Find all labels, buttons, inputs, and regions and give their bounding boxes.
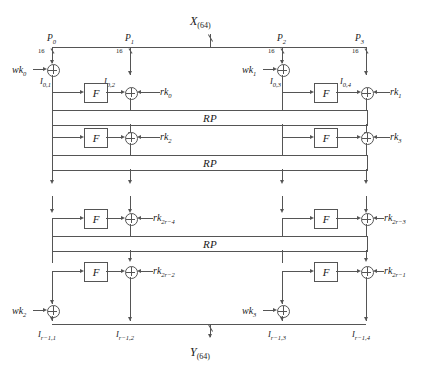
output-label: Y(64) [190,345,210,361]
intermediate-label-Ir13: Ir−1,3 [268,329,286,341]
branch-line-p2-r0 [282,75,283,92]
rp1-out-b1 [52,124,53,137]
arrow-rk0-into-xor [137,90,141,94]
arrow-p3-down [364,71,368,75]
r0-right-f-out [336,92,359,93]
arrow-rk2r3-into-xor [373,216,377,220]
rk2r3-feed-line [376,218,384,219]
rp-band-2: RP [52,155,368,171]
rk2r4-feed-line [140,218,153,219]
r1-b1-to-rp2 [52,137,53,155]
round-key-label-rk1: rk1 [390,86,402,99]
round-key-label-rk0: rk0 [160,86,172,99]
width-label-p2: 16 [268,47,275,54]
rn2-b3-to-rp3 [282,218,283,236]
arrow-rp2-b4-down [364,180,368,184]
r0-left-feed [52,92,82,93]
arrow-wk3-into-xor [273,308,277,312]
arrow-rk2r2-into-xor [137,269,141,273]
arrow-rp2-b2-down [128,180,132,184]
intermediate-label-Ir14: Ir−1,4 [352,329,370,341]
r1-right-f-out [336,137,359,138]
rp3-out-b3 [282,250,283,263]
rn2-b2-to-rp3 [130,224,131,236]
key-label-wk1: wk1 [242,64,256,77]
round-key-label-rk2r-4: rk2r−4 [153,212,175,225]
rn2-right-feed [282,218,312,219]
arrow-rk3-into-xor [373,135,377,139]
arrow-b3-into-bus [280,317,284,321]
gap-in-b1 [52,196,53,210]
arrow-wk0-into-xor [43,67,47,71]
rp1-out-b3 [282,124,283,137]
arrow-rk1-into-xor [373,90,377,94]
f-box-rn1-right: F [314,262,338,282]
r1-b2-to-rp2 [130,143,131,155]
input-label: X(64) [190,14,211,30]
rp3-out-b1 [52,250,53,263]
cipher-diagram: X(64) P0 P1 P2 P3 16 16 16 16 wk0 wk1 [0,0,421,376]
rn1-right-f-out [336,271,359,272]
rk2-feed-line [140,137,160,138]
key-label-wk2: wk2 [12,305,26,318]
rn2-right-f-out [336,218,359,219]
arrow-gap-b1-down [50,209,54,213]
rn2-left-feed [52,218,82,219]
key-label-wk0: wk0 [12,64,26,77]
rk0-feed-line [140,92,160,93]
arrow-into-wk2-xor [50,300,54,304]
key-label-wk3: wk3 [242,305,256,318]
branch-label-p1: P1 [125,33,134,45]
arrow-output-down [208,334,212,338]
intermediate-label-I03: I0,3 [270,76,281,88]
branch-label-p2: P2 [277,33,286,45]
wk0-feed-line [33,69,43,70]
rk3-feed-line [376,137,390,138]
branch-line-b2-to-rp1 [130,98,131,110]
wk1-feed-line [263,69,273,70]
round-key-label-rk2r-1: rk2r−1 [384,265,406,278]
rn2-b1-to-rp3 [52,218,53,236]
r1-b3-to-rp2 [282,137,283,155]
arrow-rk2-into-xor [137,135,141,139]
arrow-rp3-b2-down [128,258,132,262]
arrow-b1-into-bus [50,317,54,321]
round-key-label-rk2r-2: rk2r−2 [153,265,175,278]
intermediate-label-I01: I0,1 [40,76,51,88]
input-bus-horizontal [52,47,366,48]
branch-line-b1-to-rp1 [52,92,53,110]
intermediate-label-Ir12: Ir−1,2 [116,329,134,341]
intermediate-label-I04: I0,4 [340,76,351,88]
round-key-label-rk3: rk3 [390,131,402,144]
r0-right-feed [282,92,312,93]
arrow-rp3-b4-down [364,258,368,262]
rp-band-3: RP [52,236,368,252]
rk2r2-feed-line [140,271,153,272]
rn1-b2-down [130,277,131,321]
intermediate-label-Ir11: Ir−1,1 [38,329,56,341]
branch-line-b4-to-rp1 [366,98,367,110]
r1-right-feed [282,137,312,138]
rn1-right-feed [282,271,312,272]
branch-line-p0-r0 [52,75,53,92]
f-box-r1-left: F [84,128,108,148]
f-box-rn1-left: F [84,262,108,282]
gap-in-b4 [366,196,367,210]
f-box-r1-right: F [314,128,338,148]
f-box-r0-right: F [314,83,338,103]
round-key-label-rk2: rk2 [160,131,172,144]
arrow-wk1-into-xor [273,67,277,71]
gap-in-b3 [282,196,283,210]
wk2-feed-line [33,310,43,311]
f-box-rn2-right: F [314,209,338,229]
wk3-feed-line [263,310,273,311]
round-key-label-rk2r-3: rk2r−3 [384,212,406,225]
arrow-rp2-b3-down [280,180,284,184]
arrow-gap-b3-down [280,209,284,213]
arrow-rk2r4-into-xor [137,216,141,220]
arrow-b2-into-bus [128,317,132,321]
rn1-b4-down [366,277,367,321]
r1-b4-to-rp2 [366,143,367,155]
arrow-into-wk3-xor [280,300,284,304]
f-box-r0-left: F [84,83,108,103]
